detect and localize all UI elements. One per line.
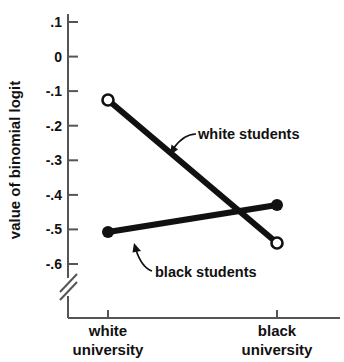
data-point-black-students-black-university [271,199,283,211]
data-point-white-students-black-university [272,238,283,249]
x-tick-label-white-university: university [73,341,145,358]
y-axis-title: value of binomial logit [6,81,23,239]
y-tick-label: -.3 [46,152,63,168]
series-white-students [103,95,283,249]
white-students-arrow-icon [173,134,196,149]
annotation-black-students: black students [133,243,257,280]
y-tick-label: -.4 [46,187,63,203]
series-label-black-students: black students [155,264,257,280]
y-tick-label: -.6 [46,256,63,272]
black-students-arrowhead-icon [133,243,142,253]
line-chart: .1 0 -.1 -.2 -.3 -.4 -.5 -.6 white unive… [0,0,344,362]
y-tick-label: -.5 [46,221,63,237]
y-tick-label: -.1 [46,83,63,99]
annotation-white-students: white students [170,126,300,155]
series-label-white-students: white students [197,126,300,142]
x-tick-label-white-university: white [88,322,127,339]
series-black-students [102,199,283,238]
series-line-white-students [108,100,277,243]
x-tick-label-black-university: university [242,341,314,358]
x-tick-label-black-university: black [258,322,297,339]
data-point-white-students-white-university [103,95,114,106]
y-tick-label: 0 [54,49,62,65]
y-tick-label: .1 [50,14,62,30]
black-students-arrow-icon [136,250,152,271]
data-point-black-students-white-university [102,226,114,238]
chart-figure: .1 0 -.1 -.2 -.3 -.4 -.5 -.6 white unive… [0,0,344,362]
y-tick-label: -.2 [46,118,63,134]
y-ticks-group: .1 0 -.1 -.2 -.3 -.4 -.5 -.6 [46,14,78,272]
